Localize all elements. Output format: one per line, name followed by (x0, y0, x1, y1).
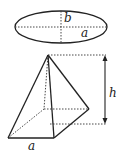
ellipse-label-b: b (64, 11, 72, 25)
arrow-down-icon (103, 118, 108, 124)
edge-apex-right (48, 55, 89, 109)
pyramid-figure: h a (8, 55, 117, 153)
geometry-diagram: b a h a (0, 0, 120, 153)
hidden-edge-base-left (8, 109, 44, 138)
edge-apex-front-right (48, 55, 54, 138)
edge-apex-front-left (8, 55, 48, 138)
ellipse-label-a: a (81, 26, 88, 40)
pyramid-label-a: a (28, 139, 35, 153)
pyramid-label-h: h (109, 86, 117, 100)
arrow-up-icon (103, 55, 108, 61)
ellipse-figure: b a (15, 11, 107, 43)
edge-base-right (54, 109, 89, 138)
